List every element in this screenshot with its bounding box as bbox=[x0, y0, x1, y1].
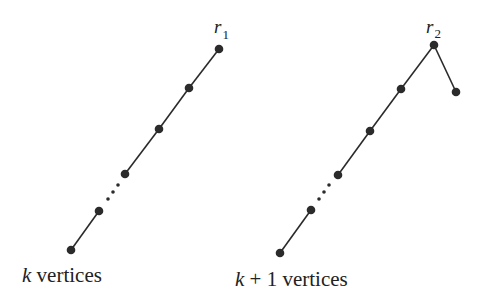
ellipsis-dot bbox=[327, 183, 331, 187]
edge bbox=[71, 211, 99, 250]
root-label-r2: r2 bbox=[426, 16, 441, 41]
edge bbox=[370, 89, 401, 131]
vertex bbox=[307, 206, 316, 215]
edge bbox=[280, 210, 311, 253]
vertex bbox=[121, 170, 130, 179]
vertex bbox=[95, 207, 104, 216]
edge bbox=[338, 131, 370, 175]
edge bbox=[159, 88, 189, 129]
vertex bbox=[276, 249, 285, 258]
left-caption: k vertices bbox=[22, 263, 102, 287]
right-tree: r2 k + 1 vertices bbox=[235, 16, 460, 291]
vertex bbox=[452, 88, 461, 97]
vertex bbox=[430, 41, 439, 50]
ellipsis-dot bbox=[322, 190, 326, 194]
right-tree-edges bbox=[280, 45, 456, 253]
left-tree-edges bbox=[71, 49, 219, 250]
root-label-r1: r1 bbox=[214, 16, 229, 42]
edge bbox=[401, 45, 434, 89]
left-tree: r1 k vertices bbox=[22, 16, 229, 287]
ellipsis-dot bbox=[106, 197, 110, 201]
ellipsis-dot bbox=[116, 183, 120, 187]
ellipsis-dot bbox=[317, 197, 321, 201]
vertex bbox=[334, 171, 343, 180]
left-tree-ellipsis bbox=[106, 183, 120, 201]
vertex bbox=[397, 85, 406, 94]
ellipsis-dot bbox=[111, 190, 115, 194]
edge bbox=[189, 49, 219, 88]
caption-text: + 1 vertices bbox=[244, 267, 347, 291]
edge bbox=[434, 45, 456, 92]
edge bbox=[125, 129, 159, 174]
vertex bbox=[366, 127, 375, 136]
right-tree-vertices bbox=[276, 41, 461, 258]
right-caption: k + 1 vertices bbox=[235, 267, 348, 291]
vertex bbox=[185, 84, 194, 93]
vertex bbox=[67, 246, 76, 255]
vertex bbox=[215, 45, 224, 54]
right-tree-ellipsis bbox=[317, 183, 331, 201]
caption-text: vertices bbox=[31, 263, 102, 287]
tree-comparison-diagram: r1 k vertices r2 k + 1 vertices bbox=[0, 0, 487, 307]
vertex bbox=[155, 125, 164, 134]
